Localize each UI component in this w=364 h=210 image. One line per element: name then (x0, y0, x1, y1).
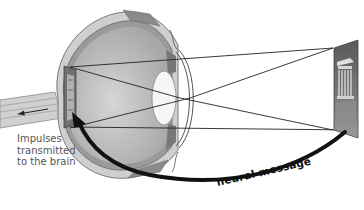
impulses-label-line2: transmitted (17, 145, 97, 157)
impulses-label-line3: to the brain (17, 156, 97, 168)
impulses-label: Impulses transmitted to the brain (17, 133, 97, 168)
optic-nerve (0, 92, 62, 128)
impulses-label-line1: Impulses (17, 133, 97, 145)
object-image-parthenon (334, 40, 358, 138)
eye-diagram: Impulses transmitted to the brain neural… (0, 0, 364, 210)
